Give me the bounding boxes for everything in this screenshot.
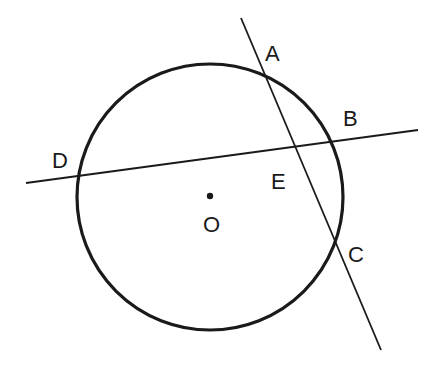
secant-line-ac — [241, 18, 381, 350]
geometry-diagram: A B C D E O — [0, 0, 436, 365]
label-o: O — [203, 212, 220, 237]
center-point-o — [207, 193, 213, 199]
label-e: E — [271, 169, 286, 194]
label-b: B — [343, 106, 358, 131]
label-a: A — [265, 41, 280, 66]
label-d: D — [52, 148, 68, 173]
label-c: C — [348, 242, 364, 267]
